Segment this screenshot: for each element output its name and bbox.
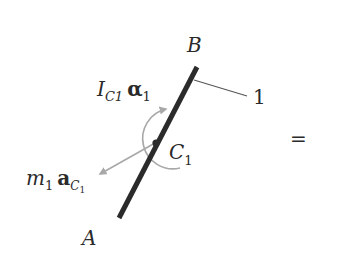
kinetic-diagram: B 1 A C1 IC1α1 m1aC1 = (0, 0, 346, 266)
point-label-a: A (80, 226, 96, 250)
body-leader-line (194, 80, 247, 96)
inertial-force-label: m1aC1 (26, 166, 85, 195)
point-label-c1: C1 (169, 140, 193, 168)
equals-sign: = (290, 127, 307, 151)
body-number-label: 1 (253, 85, 266, 109)
moment-label: IC1α1 (96, 77, 151, 104)
point-label-b: B (186, 33, 202, 57)
center-of-mass-point (152, 139, 159, 146)
